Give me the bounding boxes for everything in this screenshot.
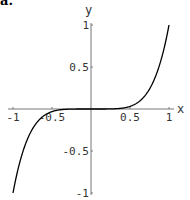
- x-tick-label: -0.5: [39, 111, 66, 124]
- y-tick-label: 1: [82, 19, 89, 32]
- plot-canvas: -1-0.50.51 10.5-0.5-1 x y: [0, 0, 190, 200]
- y-tick-label: 0.5: [69, 61, 89, 74]
- y-tick-label: -0.5: [63, 145, 90, 158]
- x-tick-label: -1: [6, 111, 19, 124]
- x-axis-label: x: [177, 102, 184, 116]
- y-tick-label: -1: [76, 187, 89, 200]
- y-axis-label: y: [85, 3, 92, 17]
- x-tick-label: 1: [166, 111, 173, 124]
- x-tick-label: 0.5: [120, 111, 140, 124]
